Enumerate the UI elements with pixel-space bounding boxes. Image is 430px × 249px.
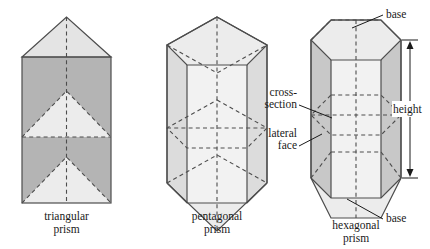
triangular-prism-caption-line1: triangular (44, 210, 89, 223)
hexagonal-prism-right-lateral-face (381, 40, 401, 198)
hexagonal-prism-caption-line2: prism (343, 232, 369, 245)
base-bottom-label: base (386, 212, 406, 224)
pentagonal-prism-caption-line2: prism (204, 223, 230, 236)
base-top-label: base (386, 8, 406, 20)
triangular-prism: triangular prism (22, 17, 111, 236)
pentagonal-prism-left-lateral-face (167, 45, 187, 203)
pentagonal-prism: pentagonal prism (167, 17, 267, 236)
hexagonal-prism-left-lateral-face (311, 40, 331, 198)
height-arrowhead-top (407, 41, 414, 49)
cross-section-label-line2: section (264, 98, 297, 110)
cross-section-label-line1: cross- (270, 86, 298, 98)
pentagonal-prism-right-lateral-face (247, 45, 267, 203)
lateral-face-label-line1: lateral (268, 127, 297, 139)
triangular-prism-top-base (22, 17, 111, 57)
triangular-prism-caption-line2: prism (53, 223, 79, 236)
lateral-face-label-line2: face (278, 139, 297, 151)
hexagonal-prism-caption-line1: hexagonal (332, 219, 379, 232)
prisms-figure: triangular prism (0, 0, 430, 249)
prisms-diagram: triangular prism (0, 0, 430, 249)
pentagonal-prism-caption-line1: pentagonal (192, 210, 242, 223)
height-label: height (393, 103, 423, 116)
height-arrowhead-bottom (407, 169, 414, 177)
